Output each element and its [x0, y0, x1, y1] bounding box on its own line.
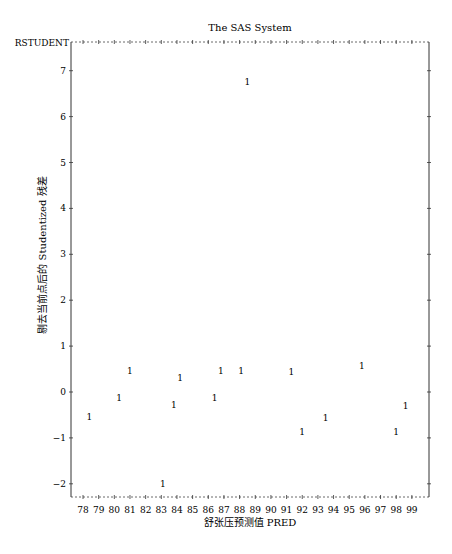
y-tick-label: 6 — [60, 112, 66, 122]
x-tick-label: 78 — [77, 505, 89, 515]
x-axis-label: 舒张压预测值 PRED — [204, 516, 297, 528]
y-tick-label: 5 — [60, 158, 66, 168]
x-tick-label: 91 — [281, 505, 292, 515]
x-tick-label: 84 — [171, 505, 183, 515]
x-tick-label: 85 — [187, 505, 199, 515]
data-point: 1 — [299, 427, 305, 437]
x-tick-label: 90 — [265, 505, 277, 515]
x-axis-ticks: 7879808182838485868788899091929394959697… — [77, 40, 418, 515]
y-axis-ticks: −2−101234567 — [53, 66, 431, 489]
data-point: 1 — [116, 393, 122, 403]
y-tick-label: −1 — [53, 433, 66, 443]
y-variable-name: RSTUDENT — [15, 38, 69, 48]
y-tick-label: −2 — [53, 479, 66, 489]
x-tick-label: 87 — [218, 505, 230, 515]
x-tick-label: 99 — [406, 505, 418, 515]
x-tick-label: 79 — [93, 505, 105, 515]
x-tick-label: 94 — [328, 505, 340, 515]
data-point: 1 — [238, 366, 244, 376]
x-tick-label: 89 — [250, 505, 262, 515]
x-tick-label: 95 — [343, 505, 355, 515]
data-point: 1 — [171, 400, 177, 410]
x-tick-label: 88 — [234, 505, 246, 515]
x-tick-label: 92 — [297, 505, 308, 515]
chart-title: The SAS System — [208, 22, 292, 33]
plot-frame — [71, 42, 429, 497]
data-point: 1 — [403, 401, 409, 411]
y-tick-label: 7 — [60, 66, 66, 76]
x-tick-label: 82 — [140, 505, 151, 515]
y-tick-label: 4 — [60, 203, 66, 213]
y-axis-label: 剔去当前点后的 Studentized 残差 — [36, 176, 48, 333]
data-point: 1 — [323, 413, 329, 423]
x-tick-label: 80 — [109, 505, 121, 515]
y-tick-label: 2 — [60, 295, 66, 305]
y-tick-label: 3 — [60, 249, 66, 259]
x-tick-label: 98 — [390, 505, 402, 515]
data-point: 1 — [393, 427, 399, 437]
x-tick-label: 86 — [203, 505, 215, 515]
data-point: 1 — [288, 367, 294, 377]
data-points: 1111111111111111 — [86, 77, 408, 489]
data-point: 1 — [86, 412, 92, 422]
x-tick-label: 93 — [312, 505, 324, 515]
y-tick-label: 0 — [60, 387, 66, 397]
x-tick-label: 81 — [124, 505, 135, 515]
data-point: 1 — [218, 366, 224, 376]
x-tick-label: 83 — [156, 505, 168, 515]
data-point: 1 — [245, 77, 251, 87]
data-point: 1 — [359, 361, 365, 371]
y-tick-label: 1 — [60, 341, 66, 351]
x-tick-label: 96 — [359, 505, 371, 515]
data-point: 1 — [212, 393, 218, 403]
x-tick-label: 97 — [375, 505, 387, 515]
scatter-chart: The SAS System RSTUDENT 7879808182838485… — [0, 0, 452, 554]
data-point: 1 — [177, 373, 183, 383]
data-point: 1 — [160, 479, 166, 489]
data-point: 1 — [127, 366, 133, 376]
